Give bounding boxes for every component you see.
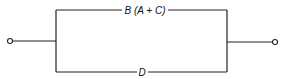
left-terminal-icon: [8, 39, 13, 44]
parallel-circuit-diagram: B (A + C) D: [0, 0, 288, 79]
right-terminal-icon: [273, 40, 278, 45]
top-branch-label: B (A + C): [124, 5, 165, 16]
bottom-branch-label: D: [138, 67, 145, 78]
